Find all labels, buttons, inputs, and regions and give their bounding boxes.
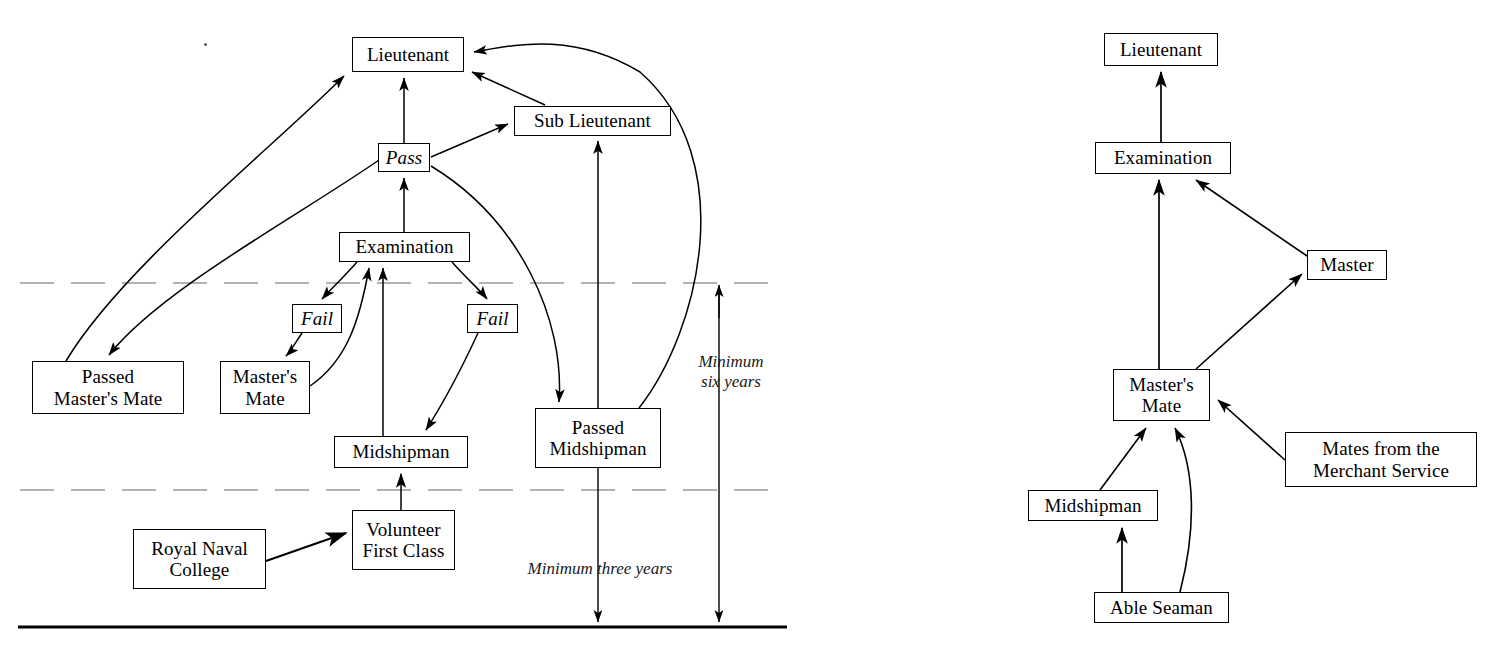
scan-speck xyxy=(204,43,207,46)
edge-passed-midshipman-to-lieutenant xyxy=(474,44,701,408)
node-pass[interactable]: Pass xyxy=(378,143,430,172)
edge-r-midshipman-to-masters-mate xyxy=(1100,428,1146,490)
node-royal-naval-college[interactable]: Royal Naval College xyxy=(133,529,266,589)
edge-pass-to-passed-midshipman xyxy=(431,166,560,402)
edge-examination-to-fail-right xyxy=(452,262,487,299)
node-fail-right[interactable]: Fail xyxy=(467,304,518,333)
node-r-able-seaman[interactable]: Able Seaman xyxy=(1094,592,1229,623)
node-r-master[interactable]: Master xyxy=(1307,250,1387,280)
node-passed-midshipman[interactable]: Passed Midshipman xyxy=(535,408,661,468)
node-examination[interactable]: Examination xyxy=(339,232,470,262)
node-r-lieutenant[interactable]: Lieutenant xyxy=(1104,33,1218,66)
edge-pass-to-sub-lieutenant xyxy=(431,124,508,157)
edge-examination-to-fail-left xyxy=(322,262,357,299)
node-r-midshipman[interactable]: Midshipman xyxy=(1028,490,1158,521)
node-volunteer-first-class[interactable]: Volunteer First Class xyxy=(352,510,455,570)
node-sub-lieutenant[interactable]: Sub Lieutenant xyxy=(514,106,671,136)
node-r-mates-from-merchant-service[interactable]: Mates from the Merchant Service xyxy=(1285,432,1477,487)
node-lieutenant[interactable]: Lieutenant xyxy=(352,37,464,72)
node-r-examination[interactable]: Examination xyxy=(1095,142,1231,174)
edge-fail-right-to-midshipman xyxy=(426,333,478,430)
diagram-canvas: Lieutenant Sub Lieutenant Pass Examinati… xyxy=(0,0,1485,659)
edge-sub-lieutenant-to-lieutenant xyxy=(472,72,545,105)
edge-fail-left-to-masters-mate xyxy=(286,333,302,356)
annotation-minimum-three-years: Minimum three years xyxy=(505,559,695,579)
node-r-masters-mate[interactable]: Master's Mate xyxy=(1113,369,1210,421)
edge-r-master-to-examination xyxy=(1196,180,1307,256)
edge-r-mates-to-masters-mate xyxy=(1218,400,1285,460)
annotation-minimum-six-years: Minimum six years xyxy=(685,352,777,391)
node-passed-masters-mate[interactable]: Passed Master's Mate xyxy=(32,361,184,414)
edge-r-able-seaman-to-masters-mate xyxy=(1175,428,1191,592)
node-midshipman[interactable]: Midshipman xyxy=(334,436,468,468)
edge-r-masters-mate-to-master xyxy=(1196,274,1302,369)
edge-royal-naval-college-to-volunteer xyxy=(266,533,346,561)
node-masters-mate[interactable]: Master's Mate xyxy=(220,361,310,414)
node-fail-left[interactable]: Fail xyxy=(292,304,342,333)
